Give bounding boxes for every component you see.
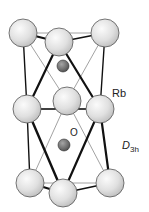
- o-label: O: [70, 128, 78, 138]
- rb-atom: [86, 95, 114, 123]
- rb-label: Rb: [112, 88, 126, 99]
- rb9o2-cluster-diagram: [0, 0, 149, 212]
- rb-atom: [96, 169, 124, 197]
- o-atoms-lower: [58, 139, 70, 151]
- rb-atom: [91, 19, 119, 47]
- rb-atom: [13, 95, 41, 123]
- o-atom: [57, 60, 69, 72]
- rb-atom: [49, 179, 77, 207]
- rb-atom: [45, 28, 73, 56]
- rb-atom: [53, 87, 81, 115]
- o-atoms-upper: [57, 60, 69, 72]
- rb-atom: [16, 169, 44, 197]
- symmetry-main: D: [122, 139, 130, 151]
- rb-atom: [9, 19, 37, 47]
- symmetry-label: D3h: [122, 140, 139, 154]
- o-atom: [58, 139, 70, 151]
- symmetry-sub: 3h: [130, 145, 139, 154]
